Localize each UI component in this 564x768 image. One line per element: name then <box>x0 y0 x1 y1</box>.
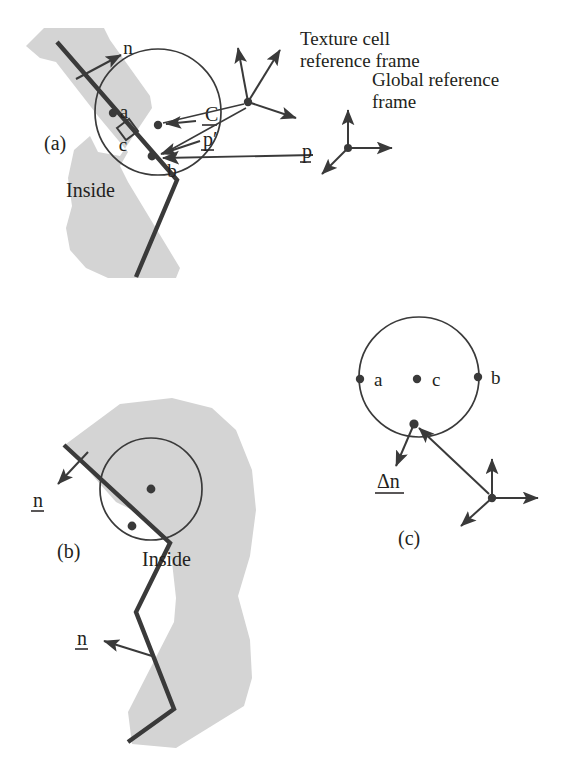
texture-frame-label-line2: reference frame <box>300 50 420 71</box>
panel-c-delta-normal-arrow <box>396 424 414 466</box>
panel-a-inside-label: Inside <box>66 179 115 201</box>
panel-a-point-b-dot <box>148 152 157 161</box>
panel-a-point-a-label: a <box>120 101 129 122</box>
texture-frame-origin-dot <box>244 98 252 106</box>
panel-a-p-label: p <box>302 140 312 163</box>
panel-a-caption: (a) <box>44 132 66 155</box>
panel-c-delta-normal-label: Δn <box>377 470 400 492</box>
global-frame-c-axis-diag <box>461 498 492 526</box>
panel-b-upper-normal-arrow <box>58 452 88 484</box>
panel-c-delta-normal-label-group: Δn <box>375 470 404 493</box>
panel-c-point-a-dot <box>356 375 364 383</box>
panel-a-normal-label: n <box>123 37 133 58</box>
panel-a-cell-center-dot <box>154 121 162 129</box>
global-frame-label-line2: frame <box>372 91 416 112</box>
global-frame-c-origin-dot <box>488 494 496 502</box>
panel-b-lower-normal-label: n <box>77 627 87 649</box>
panel-c: a c b Δn ( <box>356 317 538 550</box>
panel-b-caption: (b) <box>57 540 80 563</box>
panel-b-contact-point-dot <box>128 522 137 531</box>
texture-cell-reference-frame <box>238 48 296 118</box>
global-reference-frame-a <box>322 110 392 174</box>
panel-a-p-label-group: p <box>300 140 312 163</box>
panel-c-point-b-label: b <box>491 367 501 388</box>
texture-frame-axis-up <box>238 48 248 102</box>
panel-b-upper-normal-label-group: n <box>31 489 44 511</box>
panel-b-lower-normal-arrow <box>104 641 152 656</box>
global-frame-a-axis-diag <box>322 148 348 174</box>
panel-a-frame-to-C-line <box>163 104 244 123</box>
panel-c-position-vector-arrow <box>419 428 489 494</box>
panel-a-point-a-dot <box>109 109 117 117</box>
figure-root: n a b c C p′ <box>0 0 564 768</box>
panel-b-circle-center-dot <box>147 485 156 494</box>
panel-b-lower-normal-label-group: n <box>75 627 88 649</box>
panel-b-inside-label: Inside <box>142 548 191 570</box>
global-reference-frame-c <box>461 459 538 526</box>
panel-b-inside-region <box>66 398 256 748</box>
panel-c-point-c-label: c <box>432 369 440 390</box>
panel-a: n a b c C p′ <box>26 28 499 278</box>
texture-frame-axis-right <box>248 102 296 118</box>
panel-a-point-b-label: b <box>167 160 177 181</box>
texture-frame-axis-diag <box>248 50 280 102</box>
panel-a-C-label: C <box>205 103 218 125</box>
panel-b-upper-normal-label: n <box>33 489 43 511</box>
panel-a-p-leader-arrow <box>163 155 313 158</box>
panel-b: n n Inside (b) <box>31 398 256 748</box>
global-frame-a-origin-dot <box>344 144 352 152</box>
panel-c-caption: (c) <box>398 527 420 550</box>
texture-frame-label-line1: Texture cell <box>300 28 390 49</box>
diagram-canvas: n a b c C p′ <box>0 0 564 768</box>
panel-c-point-a-label: a <box>374 369 383 390</box>
global-frame-label-line1: Global reference <box>372 69 499 90</box>
panel-c-point-b-dot <box>474 373 482 381</box>
panel-c-point-c-dot <box>413 375 421 383</box>
